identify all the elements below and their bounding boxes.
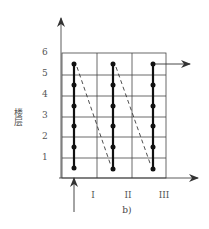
y-tick-2: 2 <box>42 131 48 141</box>
flow-column-2 <box>111 62 116 172</box>
transition-1-2 <box>77 67 111 166</box>
y-tick-5: 5 <box>42 68 48 78</box>
section-label-2: II <box>124 190 132 200</box>
y-tick-3: 3 <box>42 110 48 120</box>
y-tick-labels: 1 2 3 4 5 6 <box>42 47 48 162</box>
y-tick-6: 6 <box>42 47 48 57</box>
transition-2-3 <box>116 67 151 166</box>
flow-column-1 <box>72 62 77 171</box>
y-tick-4: 4 <box>42 89 48 99</box>
y-tick-1: 1 <box>42 152 48 162</box>
section-label-1: I <box>91 190 95 200</box>
flow-column-3 <box>151 62 156 172</box>
caption: b) <box>122 205 131 215</box>
y-axis-label: 楼层 <box>13 107 23 127</box>
flow-diagram: 1 2 3 4 5 6 楼层 I II III b) <box>0 0 209 229</box>
section-label-3: III <box>159 190 170 200</box>
